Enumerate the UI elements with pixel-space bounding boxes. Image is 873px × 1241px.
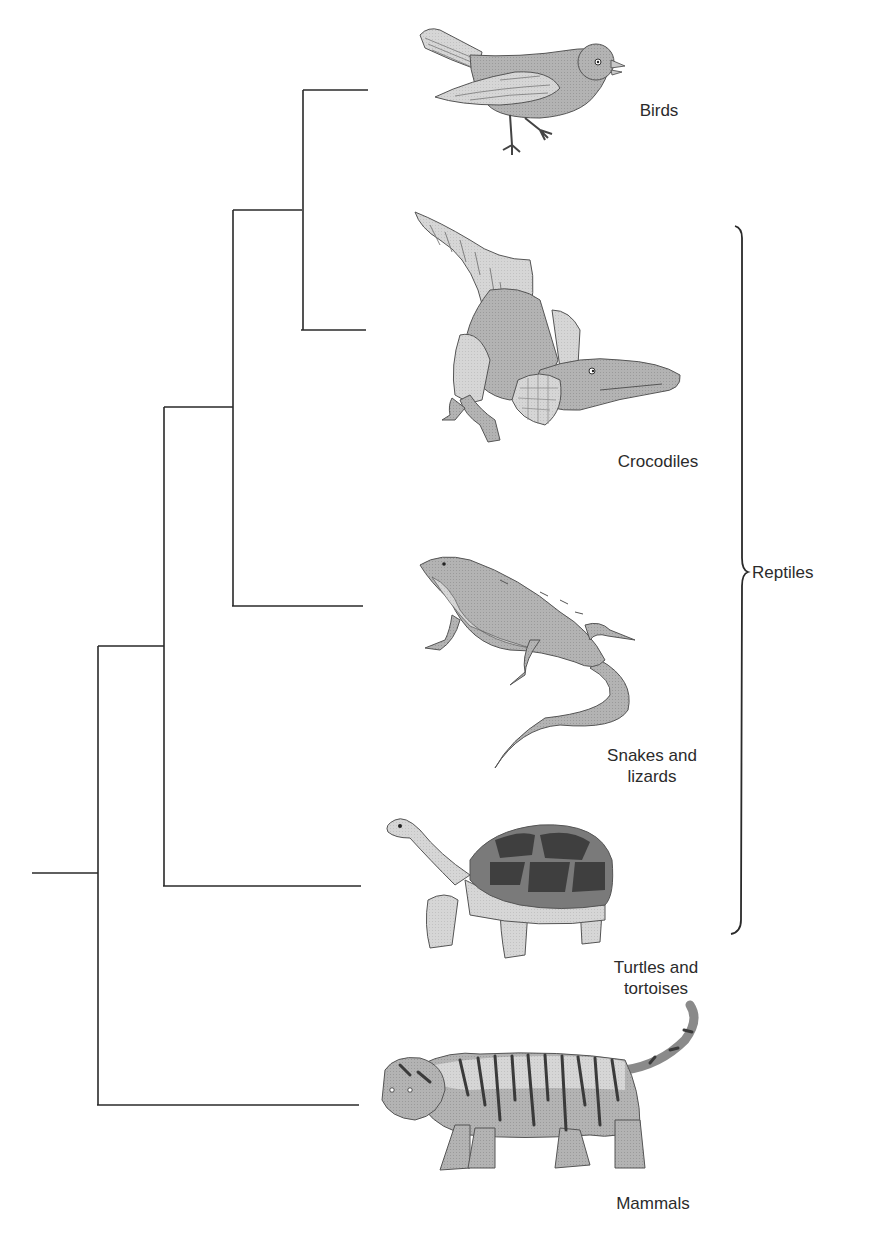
crocodile-icon bbox=[415, 212, 680, 442]
label-reptiles: Reptiles bbox=[752, 562, 842, 583]
label-crocodiles: Crocodiles bbox=[598, 451, 718, 472]
tortoise-icon bbox=[387, 819, 613, 958]
label-turtles-tortoises: Turtles and tortoises bbox=[596, 957, 716, 999]
label-mammals: Mammals bbox=[598, 1193, 708, 1214]
bird-icon bbox=[420, 29, 625, 155]
tiger-icon bbox=[382, 1005, 694, 1170]
node-archosaurs bbox=[233, 90, 303, 330]
tree-branches bbox=[32, 90, 368, 1105]
node-reptiles-birds bbox=[98, 407, 164, 886]
lizard-icon bbox=[420, 557, 635, 768]
reptiles-bracket bbox=[731, 226, 748, 934]
node-diapsids bbox=[164, 210, 233, 606]
phylogenetic-tree-diagram bbox=[0, 0, 873, 1241]
label-birds: Birds bbox=[624, 100, 694, 121]
label-snakes-lizards: Snakes and lizards bbox=[592, 745, 712, 787]
